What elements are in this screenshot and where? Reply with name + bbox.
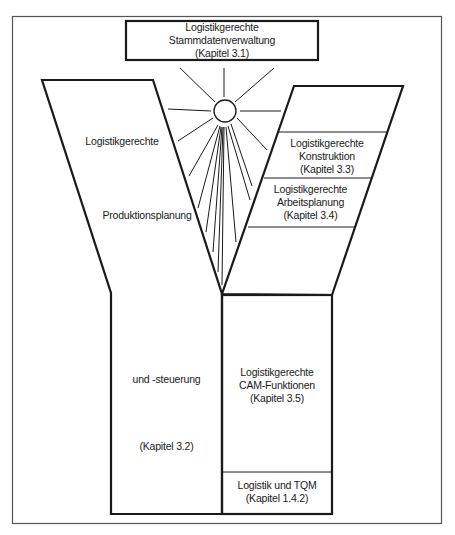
top-box-line-3: (Kapitel 3.1) xyxy=(126,47,318,60)
top-box-line-2: Stammdatenverwaltung xyxy=(126,34,318,47)
left-branch-line-1: Logistikgerechte xyxy=(72,135,172,148)
left-branch-line-2: Produktionsplanung xyxy=(92,209,202,222)
right-stem-section-tqm: Logistik und TQM (Kapitel 1.4.2) xyxy=(222,479,332,505)
right-branch-section-arbeitsplanung: Logistikgerechte Arbeitsplanung (Kapitel… xyxy=(253,183,368,222)
right-stem-section-cam: Logistikgerechte CAM-Funktionen (Kapitel… xyxy=(222,366,332,405)
left-branch-line-3: und -steuerung xyxy=(111,373,222,386)
top-box-label: Logistikgerechte Stammdatenverwaltung (K… xyxy=(126,21,318,60)
left-branch-line-4: (Kapitel 3.2) xyxy=(111,440,222,453)
right-branch-section-konstruktion: Logistikgerechte Konstruktion (Kapitel 3… xyxy=(272,137,382,176)
y-model-diagram xyxy=(0,0,455,535)
top-box-line-1: Logistikgerechte xyxy=(126,21,318,34)
outer-frame xyxy=(13,17,442,524)
